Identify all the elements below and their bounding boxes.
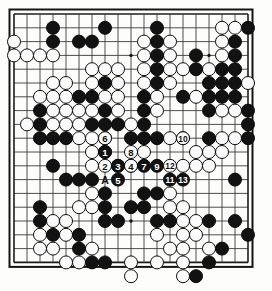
white-stone[interactable] (86, 187, 99, 200)
black-stone[interactable] (190, 63, 203, 76)
black-stone[interactable] (99, 215, 112, 228)
black-stone[interactable] (112, 215, 125, 228)
black-stone[interactable] (203, 132, 216, 145)
white-stone[interactable] (34, 242, 47, 255)
black-stone[interactable] (242, 21, 255, 34)
white-stone[interactable] (138, 35, 151, 48)
white-stone[interactable] (138, 49, 151, 62)
black-stone[interactable] (99, 21, 112, 34)
white-stone[interactable] (86, 159, 99, 172)
black-stone[interactable] (99, 187, 112, 200)
white-stone[interactable] (60, 77, 73, 90)
black-stone[interactable] (151, 49, 164, 62)
white-stone[interactable] (164, 201, 177, 214)
white-stone[interactable] (8, 49, 21, 62)
white-stone[interactable] (34, 228, 47, 241)
black-stone[interactable] (47, 21, 60, 34)
black-stone[interactable] (151, 77, 164, 90)
black-stone[interactable] (151, 215, 164, 228)
move-stone-10[interactable] (177, 132, 190, 145)
black-stone[interactable] (242, 104, 255, 117)
black-stone[interactable] (99, 118, 112, 131)
white-stone[interactable] (34, 49, 47, 62)
white-stone[interactable] (177, 63, 190, 76)
white-stone[interactable] (190, 159, 203, 172)
white-stone[interactable] (73, 132, 86, 145)
black-stone[interactable] (47, 159, 60, 172)
black-stone[interactable] (125, 132, 138, 145)
black-stone[interactable] (229, 77, 242, 90)
white-stone[interactable] (73, 256, 86, 269)
white-stone[interactable] (190, 228, 203, 241)
white-stone[interactable] (216, 49, 229, 62)
white-stone[interactable] (164, 242, 177, 255)
black-stone[interactable] (138, 187, 151, 200)
black-stone[interactable] (73, 228, 86, 241)
white-stone[interactable] (34, 90, 47, 103)
black-stone[interactable] (203, 256, 216, 269)
black-stone[interactable] (242, 132, 255, 145)
white-stone[interactable] (47, 49, 60, 62)
black-stone[interactable] (99, 77, 112, 90)
black-stone[interactable] (86, 173, 99, 186)
white-stone[interactable] (73, 201, 86, 214)
white-stone[interactable] (125, 256, 138, 269)
move-stone-3[interactable] (112, 159, 125, 172)
white-stone[interactable] (177, 159, 190, 172)
white-stone[interactable] (229, 132, 242, 145)
white-stone[interactable] (47, 215, 60, 228)
black-stone[interactable] (242, 118, 255, 131)
white-stone[interactable] (112, 63, 125, 76)
white-stone[interactable] (203, 159, 216, 172)
black-stone[interactable] (99, 256, 112, 269)
black-stone[interactable] (203, 90, 216, 103)
black-stone[interactable] (138, 132, 151, 145)
black-stone[interactable] (216, 77, 229, 90)
black-stone[interactable] (112, 118, 125, 131)
move-stone-11[interactable] (164, 173, 177, 186)
black-stone[interactable] (138, 118, 151, 131)
white-stone[interactable] (190, 146, 203, 159)
white-stone[interactable] (242, 77, 255, 90)
white-stone[interactable] (164, 132, 177, 145)
white-stone[interactable] (47, 77, 60, 90)
black-stone[interactable] (73, 173, 86, 186)
white-stone[interactable] (125, 270, 138, 283)
black-stone[interactable] (229, 49, 242, 62)
white-stone[interactable] (60, 256, 73, 269)
black-stone[interactable] (151, 21, 164, 34)
move-stone-1[interactable] (99, 146, 112, 159)
white-stone[interactable] (86, 63, 99, 76)
move-stone-5[interactable] (112, 173, 125, 186)
black-stone[interactable] (60, 132, 73, 145)
white-stone[interactable] (86, 104, 99, 117)
move-stone-4[interactable] (125, 159, 138, 172)
white-stone[interactable] (86, 77, 99, 90)
black-stone[interactable] (138, 90, 151, 103)
black-stone[interactable] (125, 201, 138, 214)
white-stone[interactable] (60, 215, 73, 228)
move-stone-2[interactable] (99, 159, 112, 172)
white-stone[interactable] (151, 228, 164, 241)
white-stone[interactable] (216, 132, 229, 145)
white-stone[interactable] (164, 35, 177, 48)
black-stone[interactable] (177, 90, 190, 103)
black-stone[interactable] (34, 132, 47, 145)
move-stone-8[interactable] (125, 146, 138, 159)
white-stone[interactable] (177, 201, 190, 214)
white-stone[interactable] (47, 242, 60, 255)
black-stone[interactable] (190, 270, 203, 283)
white-stone[interactable] (216, 104, 229, 117)
white-stone[interactable] (112, 90, 125, 103)
white-stone[interactable] (99, 90, 112, 103)
white-stone[interactable] (216, 146, 229, 159)
white-stone[interactable] (73, 104, 86, 117)
white-stone[interactable] (60, 90, 73, 103)
black-stone[interactable] (203, 104, 216, 117)
black-stone[interactable] (216, 90, 229, 103)
white-stone[interactable] (177, 242, 190, 255)
white-stone[interactable] (203, 242, 216, 255)
black-stone[interactable] (203, 77, 216, 90)
black-stone[interactable] (229, 63, 242, 76)
white-stone[interactable] (190, 215, 203, 228)
